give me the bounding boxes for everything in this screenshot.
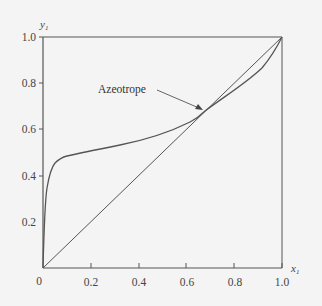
y-tick-1.0: 1.0 (22, 31, 37, 43)
x-tick-1.0: 1.0 (275, 276, 290, 288)
y-tick-0.2: 0.2 (22, 216, 37, 228)
x-tick-0.6: 0.6 (180, 276, 195, 288)
svg-text:x1: x1 (290, 262, 299, 276)
y-axis-title: y1 (39, 18, 48, 32)
diagonal-line (43, 37, 282, 268)
svg-text:y1: y1 (39, 18, 48, 32)
x-tick-0.4: 0.4 (132, 276, 147, 288)
x-ticks (91, 263, 282, 268)
y-tick-0.4: 0.4 (22, 170, 37, 182)
y-tick-0.6: 0.6 (22, 123, 37, 135)
vle-chart: 1.0 0.8 0.6 0.4 0.2 0 0.2 0.4 0.6 0.8 1.… (0, 0, 322, 306)
azeotrope-label: Azeotrope (98, 83, 146, 96)
x-tick-0.8: 0.8 (228, 276, 243, 288)
y-tick-0.8: 0.8 (22, 77, 37, 89)
x-axis-title: x1 (290, 262, 299, 276)
azeotrope-arrow (157, 90, 203, 110)
x-tick-0.2: 0.2 (84, 276, 99, 288)
origin-label: 0 (36, 275, 42, 287)
